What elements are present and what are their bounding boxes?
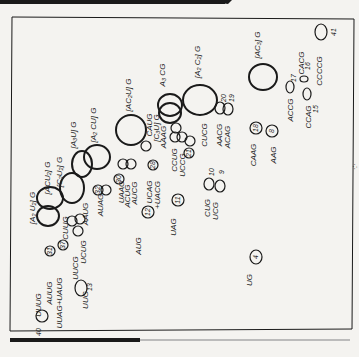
spot-19-number: 19 — [228, 94, 235, 102]
spot-a3u-circle — [72, 151, 92, 177]
edge-mark: ·:· — [351, 163, 358, 170]
spot-ac3-label: [AC₃] G — [253, 31, 262, 59]
spot-8-number: 8 — [268, 129, 275, 133]
spot-16-number: 16 — [304, 62, 311, 70]
spot-a3u-circle-2 — [84, 145, 110, 169]
spot-12-number: 12 — [144, 208, 151, 216]
spot-10-circle — [204, 178, 214, 190]
spot-13-number: 13 — [86, 283, 93, 291]
spot-a2cu-label: [A₂ CU] G — [89, 107, 98, 143]
spot-auag-label: AUAG — [96, 194, 105, 218]
spot-a3c-label: A₃ CG — [158, 64, 167, 88]
spot-10-number: 10 — [208, 168, 215, 176]
spot-aaug-label: AAUG — [81, 203, 90, 227]
spot-cuug-label: CUUG — [61, 216, 70, 240]
spot-4-label: UG — [245, 274, 254, 286]
bottom-bar-light — [140, 339, 350, 341]
spot-uacg-label: +UACG — [153, 181, 162, 209]
spot-9-label: UCG — [211, 202, 220, 220]
spot-26-circle — [141, 141, 151, 151]
spot-8-label: AAG — [269, 147, 278, 165]
spot-41-circle — [315, 24, 327, 40]
spot-13-label: UUG — [81, 291, 90, 309]
top-bar — [0, 0, 225, 4]
spot-ucug-label: UCUG — [79, 240, 88, 264]
bottom-bar — [10, 338, 140, 342]
spot-ac2u-circle — [116, 115, 146, 145]
spot-uccg-label: UCCG — [178, 153, 187, 177]
fingerprint-diagram: 313732302821 UUUG40UUG13AUUGUUAG+UAUGUUC… — [0, 0, 359, 357]
spot-9-circle — [215, 180, 225, 192]
spot-37-number: 37 — [59, 240, 66, 249]
spot-17-label: ACCG — [286, 98, 295, 122]
spot-aaag-label: AAAG — [159, 126, 168, 149]
spot-40-label: UUUG — [34, 293, 43, 317]
spot-11-label: UAG — [169, 218, 178, 235]
spot-41-label: CCCCG — [315, 56, 324, 85]
label-layer: UUUG40UUG13AUUGUUAG+UAUGUUCGUCUGAAUGCUUG… — [28, 28, 337, 336]
spot-31-number: 31 — [46, 247, 53, 255]
spot-41-number: 41 — [330, 28, 337, 36]
spot-a3u-label: [A₃U] G — [69, 121, 78, 149]
spot-15-circle — [303, 88, 311, 100]
spot-40-number: 40 — [35, 328, 42, 336]
spot-19-label: ACAG — [223, 126, 232, 150]
spot-a2c2-circle — [183, 85, 217, 115]
spot-a2u2-label: [A₂ U₂] G — [28, 192, 37, 225]
spot-12-label: AUG — [134, 237, 143, 255]
spot-ac2u-label: [AC₂U] G — [124, 79, 133, 113]
spot-15-number: 15 — [312, 105, 319, 113]
spot-18-number: 18 — [252, 124, 259, 132]
spot-28-number: 28 — [149, 161, 156, 170]
spot-16-circle — [300, 76, 308, 82]
spot-auug-label: AUUG — [45, 281, 54, 305]
spot-20-number: 20 — [220, 94, 227, 103]
spot-33-circle — [73, 226, 83, 236]
spot-4-number: 4 — [252, 255, 259, 259]
spot-uuag-label: UUAG+UAUG — [55, 278, 64, 329]
spot-11-number: 11 — [174, 196, 181, 203]
spot-a3c-circle — [158, 94, 182, 116]
spot-9-number: 9 — [218, 170, 225, 174]
spot-c2u2-label: [C₂U₂] G — [55, 157, 64, 189]
spot-17-number: 17 — [290, 73, 297, 82]
spot-aucg-label: AUCG — [130, 181, 139, 205]
spot-18-label: CAAG — [249, 144, 258, 167]
spot-32-number: 32 — [94, 186, 101, 194]
spot-22-circle — [185, 136, 195, 146]
spot-a2c2-label: [A₂ C₂] G — [193, 46, 202, 79]
spot-cucg-label: CUCG — [200, 123, 209, 147]
spot-acu2-label: [ACU₂] G — [43, 162, 52, 196]
spot-ac3-circle — [249, 64, 277, 90]
